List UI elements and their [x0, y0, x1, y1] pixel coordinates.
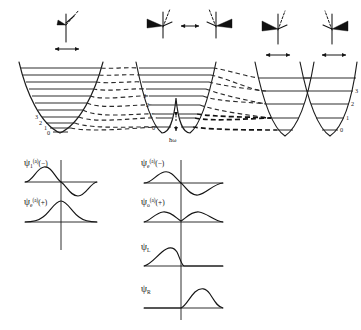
wedge-bond-icon: [332, 21, 348, 31]
level-label-3: 3: [35, 113, 38, 120]
label-psi-even-a-plus: ψe(a)(+): [24, 197, 48, 208]
level-label-0: 0: [152, 124, 155, 131]
inversion-potential-diagram: 3 2 1 0 3 2 1 0: [0, 0, 361, 330]
potential-well-right: 3 2 1 0: [255, 62, 358, 136]
wedge-bond-icon: [262, 21, 278, 31]
wavefunction-psi-left: [144, 248, 223, 266]
level-label-1: 1: [346, 114, 349, 121]
level-label-3: 3: [355, 87, 358, 94]
wavefunction-psi-odd-a-minus: [25, 160, 97, 250]
label-psi-right: ψR: [141, 284, 151, 295]
wedge-bond-icon: [147, 19, 163, 28]
label-psi-even-a-minus: ψe(a)(−): [141, 158, 165, 169]
molecule-pyramidal-left: [147, 9, 172, 38]
level-label-2: 2: [351, 100, 354, 107]
level-label-2: 2: [39, 119, 42, 126]
figure-root: 3 2 1 0 3 2 1 0: [0, 0, 361, 330]
molecule-localized-right: [323, 11, 348, 44]
molecule-pyramidal-right: [207, 9, 232, 38]
wavefunction-psi-odd-a-plus: [144, 212, 223, 222]
label-psi-left: ψL: [141, 242, 151, 253]
potential-well-left: 3 2 1 0: [19, 62, 103, 136]
label-psi-odd-a-plus: ψo(a)(+): [141, 197, 165, 208]
level-label-0: 0: [340, 126, 343, 133]
wavefunction-psi-right: [144, 289, 223, 308]
level-label-1: 1: [149, 111, 152, 118]
splitting-label: ħω: [169, 136, 176, 143]
potential-well-middle: 3 2 1 0 ħω: [136, 62, 216, 143]
molecule-planar-transition-state: [57, 10, 79, 42]
molecule-localized-left: [262, 11, 287, 44]
label-psi-odd-a-minus: ψ1(a)(−): [24, 158, 48, 169]
wedge-bond-icon: [216, 19, 232, 28]
wedge-bond-icon: [57, 20, 66, 25]
level-label-0: 0: [47, 129, 50, 136]
